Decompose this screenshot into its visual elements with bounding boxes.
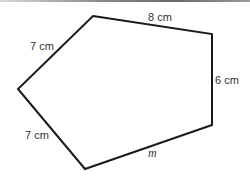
pentagon-outline bbox=[18, 16, 212, 169]
pentagon-diagram: 8 cm 6 cm m 7 cm 7 cm bbox=[0, 0, 250, 179]
side-label-top: 8 cm bbox=[148, 11, 172, 23]
side-label-bottom: m bbox=[148, 146, 157, 160]
side-label-upper-left: 7 cm bbox=[30, 40, 54, 52]
side-label-lower-left: 7 cm bbox=[25, 129, 49, 141]
side-label-right: 6 cm bbox=[215, 74, 239, 86]
